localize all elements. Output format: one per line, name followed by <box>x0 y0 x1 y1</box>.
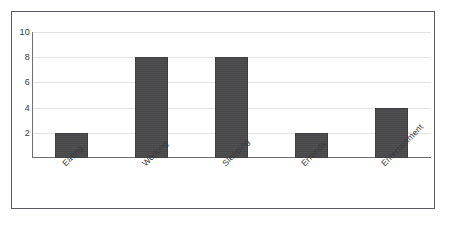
y-axis-tick-labels: 246810 <box>12 12 30 208</box>
bars-layer <box>32 32 431 158</box>
x-axis-tick-labels: EatingWorkingSleepingErrandsEntertainmen… <box>32 159 431 209</box>
chart-plot-wrapper: 246810 EatingWorkingSleepingErrandsEnter… <box>12 12 434 208</box>
y-axis-tick-label: 4 <box>25 103 30 112</box>
y-axis-tick-label: 10 <box>20 28 30 37</box>
y-axis-tick-label: 6 <box>25 78 30 87</box>
y-axis-tick-label: 8 <box>25 53 30 62</box>
chart-frame: 246810 EatingWorkingSleepingErrandsEnter… <box>11 11 435 209</box>
plot-area <box>32 32 431 158</box>
y-axis-tick-label: 2 <box>25 128 30 137</box>
